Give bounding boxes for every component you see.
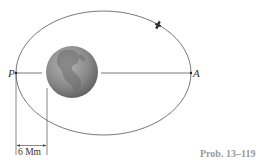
perigee-point: [15, 72, 17, 74]
arrowhead-right-icon: [43, 144, 47, 147]
perigee-label: P: [7, 67, 15, 79]
earth-icon: [46, 46, 98, 98]
apogee-label: A: [192, 67, 200, 79]
dimension-label: 6 Mm: [18, 147, 42, 157]
orbit-diagram: P A 6 Mm Prob. 13–119: [0, 0, 267, 166]
problem-caption: Prob. 13–119: [200, 148, 255, 159]
apogee-point: [190, 72, 192, 74]
satellite-icon: [154, 20, 163, 30]
